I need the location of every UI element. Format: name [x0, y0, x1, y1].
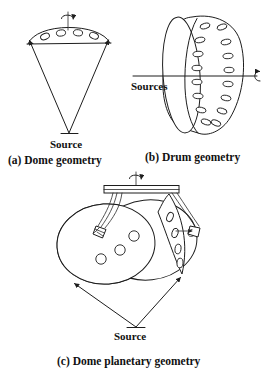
source-label-dome: Source	[50, 138, 82, 150]
dome-substrate-holes	[40, 29, 100, 41]
dome-flux-ray-left	[30, 41, 70, 134]
figure-container: Source (a) Dome geometry Sources (b) Dru…	[0, 0, 273, 374]
planetary-flux-ray-right	[136, 278, 181, 328]
caption-panel-c: (c) Dome planetary geometry	[57, 355, 200, 368]
panel-c-dome-planetary-geometry	[54, 172, 201, 328]
panel-a-dome-geometry	[27, 12, 111, 134]
dome-flux-ray-right	[69, 40, 109, 133]
planetary-flux-ray-left	[75, 284, 137, 328]
caption-panel-b: (b) Drum geometry	[145, 151, 240, 164]
planetary-carrier-plate	[104, 186, 179, 194]
source-label-planetary: Source	[114, 330, 146, 342]
caption-panel-a: (a) Dome geometry	[8, 154, 102, 167]
sources-label-drum: Sources	[131, 80, 167, 92]
panel-b-drum-geometry	[133, 16, 260, 134]
figure-drawing	[0, 0, 273, 374]
dome-rim-line	[27, 43, 111, 44]
